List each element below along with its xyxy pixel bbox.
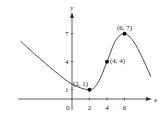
x-axis-arrowhead	[146, 97, 152, 101]
marked-points: (2, 1)(4, 4)(6, 7)	[73, 24, 133, 92]
y-tick-label: 1	[65, 86, 69, 94]
x-tick-label: 4	[105, 104, 109, 112]
point-label: (2, 1)	[73, 80, 89, 88]
marked-point	[88, 88, 92, 92]
ticks: 246147	[65, 30, 127, 112]
function-graph: x y 0 246147 (2, 1)(4, 4)(6, 7)	[0, 0, 162, 117]
marked-point	[105, 60, 109, 64]
x-tick-label: 6	[123, 104, 127, 112]
origin-label: 0	[66, 104, 70, 112]
point-label: (4, 4)	[110, 57, 126, 65]
y-tick-label: 4	[65, 58, 69, 66]
y-tick-label: 7	[65, 30, 69, 38]
y-axis-arrowhead	[70, 12, 74, 18]
marked-point	[123, 32, 127, 36]
y-axis-label: y	[70, 4, 75, 12]
point-label: (6, 7)	[117, 24, 133, 32]
x-axis-label: x	[153, 96, 158, 104]
x-tick-label: 2	[88, 104, 92, 112]
